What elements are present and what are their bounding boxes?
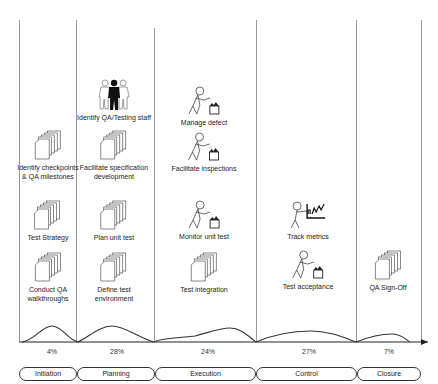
divider-line — [76, 20, 77, 342]
activity-label: Test integration — [180, 285, 227, 294]
activity-facilitate-inspections: Facilitate inspections — [172, 132, 237, 173]
activity-label: Facilitate specification — [80, 163, 148, 172]
activity-manage-defect: Manage defect — [181, 86, 227, 127]
activity-identify-qa-staff: Identify QA/Testing staff — [77, 79, 151, 122]
divider-line — [421, 20, 422, 342]
arrow-head-icon — [421, 339, 428, 345]
activity-plan-unit-test: Plan unit test — [94, 200, 134, 242]
activity-label: Facilitate inspections — [172, 164, 237, 173]
phase-closure: Closure — [357, 367, 421, 381]
activity-define-test-environment: Define test environment — [95, 252, 134, 303]
phase-execution: Execution — [155, 367, 256, 381]
team-icon — [96, 79, 132, 111]
documents-icon — [33, 200, 63, 231]
activity-label: Test acceptance — [283, 282, 334, 291]
documents-icon — [373, 250, 403, 281]
phase-control: Control — [256, 367, 357, 381]
activity-label: Manage defect — [181, 118, 227, 127]
divider-line — [154, 28, 155, 342]
activity-label: Test Strategy — [28, 233, 69, 242]
activity-monitor-unit-test: Monitor unit test — [179, 200, 229, 241]
documents-icon — [33, 130, 63, 161]
activity-test-integration: Test integration — [180, 252, 227, 294]
activity-conduct-qa-walkthroughs: Conduct QA walkthroughs — [27, 252, 68, 303]
documents-icon — [99, 200, 129, 231]
activity-label: Monitor unit test — [179, 232, 229, 241]
phase-planning: Planning — [77, 367, 155, 381]
documents-icon — [99, 130, 129, 161]
worker-bin-icon — [186, 200, 222, 230]
activity-label: development — [80, 172, 148, 181]
activity-test-strategy: Test Strategy — [28, 200, 69, 242]
activity-test-acceptance: Test acceptance — [283, 250, 334, 291]
documents-icon — [33, 252, 63, 283]
activity-label: Identify checkpoints — [17, 163, 78, 172]
activity-label: QA Sign-Off — [369, 283, 406, 292]
activity-label: Conduct QA — [27, 285, 68, 294]
percent-planning: 28% — [110, 348, 124, 355]
phase-initiation: Initiation — [19, 367, 77, 381]
activity-label: Identify QA/Testing staff — [77, 113, 151, 122]
worker-bin-icon — [186, 132, 222, 162]
activity-label: & QA milestones — [17, 172, 78, 181]
activity-label: Plan unit test — [94, 233, 134, 242]
documents-icon — [99, 252, 129, 283]
percent-execution: 24% — [201, 348, 215, 355]
divider-line — [19, 20, 20, 342]
effort-curve — [0, 300, 438, 350]
divider-line — [356, 20, 357, 342]
percent-initiation: 4% — [47, 348, 57, 355]
activity-facilitate-specification: Facilitate specification development — [80, 130, 148, 181]
activity-track-metrics: Track metrics — [287, 200, 329, 241]
documents-icon — [189, 252, 219, 283]
percent-closure: 7% — [384, 348, 394, 355]
activity-label: Define test — [95, 285, 134, 294]
worker-bin-icon — [186, 86, 222, 116]
percent-control: 27% — [302, 348, 316, 355]
divider-line — [256, 20, 257, 342]
worker-bin-icon — [290, 250, 326, 280]
activity-identify-checkpoints: Identify checkpoints & QA milestones — [17, 130, 78, 181]
activity-qa-sign-off: QA Sign-Off — [369, 250, 406, 292]
worker-chart-icon — [289, 200, 327, 230]
activity-label: Track metrics — [287, 232, 329, 241]
